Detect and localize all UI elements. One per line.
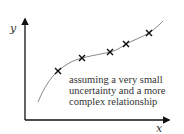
x-axis-label: x (156, 122, 163, 134)
annotation-line-2: uncertainty and a more (69, 85, 166, 96)
annotation-line-1: assuming a very small (69, 74, 163, 85)
data-points (55, 30, 152, 74)
annotation: assuming a very small uncertainty and a … (69, 74, 166, 107)
cross-marker-icon (146, 30, 152, 36)
diagram-canvas: y x assuming a very small uncertainty an… (0, 0, 184, 134)
annotation-line-3: complex relationship (69, 96, 157, 107)
cross-marker-icon (55, 68, 61, 74)
y-axis-label: y (9, 22, 17, 35)
cross-marker-icon (123, 41, 129, 47)
